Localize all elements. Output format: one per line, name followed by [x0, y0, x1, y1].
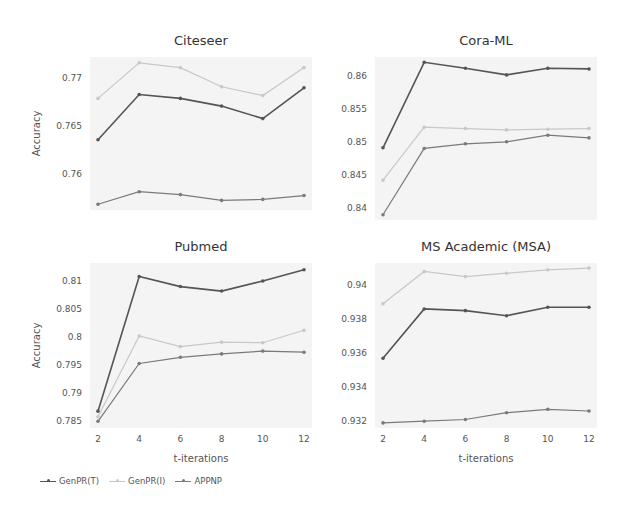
data-point	[546, 305, 550, 309]
data-point	[546, 127, 550, 131]
data-point	[546, 407, 550, 411]
y-tick-label: 0.79	[62, 388, 82, 398]
data-point	[381, 213, 385, 217]
data-point	[96, 419, 100, 423]
line-marker-icon	[109, 477, 125, 485]
data-point	[302, 268, 306, 272]
legend-label: GenPR(T)	[59, 476, 99, 486]
data-point	[464, 66, 468, 70]
x-tick-label: 4	[136, 434, 142, 444]
data-point	[137, 334, 141, 338]
data-point	[546, 268, 550, 272]
chart-title: Pubmed	[174, 239, 227, 254]
data-point	[587, 409, 591, 413]
data-point	[422, 147, 426, 151]
x-tick-label: 4	[421, 434, 427, 444]
data-point	[261, 349, 265, 353]
data-point	[505, 314, 509, 318]
data-point	[261, 94, 265, 98]
x-tick-label: 8	[219, 434, 225, 444]
data-point	[261, 341, 265, 345]
y-tick-label: 0.932	[341, 416, 367, 426]
panel-msa: MS Academic (MSA)0.9320.9340.9360.9380.9…	[341, 239, 597, 464]
panel-citeseer: Citeseer0.760.7650.77Accuracy	[31, 33, 312, 210]
figure: Citeseer0.760.7650.77Accuracy Cora-ML0.8…	[0, 0, 631, 517]
data-point	[179, 285, 183, 289]
legend-label: GenPR(I)	[128, 476, 165, 486]
panel-pubmed: Pubmed0.7850.790.7950.80.8050.8124681012…	[31, 239, 312, 464]
data-point	[587, 67, 591, 71]
plot-area	[90, 263, 312, 428]
x-tick-label: 10	[257, 434, 269, 444]
x-tick-label: 6	[463, 434, 469, 444]
data-point	[96, 409, 100, 413]
y-tick-label: 0.936	[341, 348, 367, 358]
data-point	[381, 421, 385, 425]
data-point	[381, 178, 385, 182]
data-point	[302, 86, 306, 90]
data-point	[179, 345, 183, 349]
data-point	[220, 340, 224, 344]
data-point	[587, 127, 591, 131]
x-tick-label: 10	[542, 434, 554, 444]
x-tick-label: 12	[298, 434, 309, 444]
data-point	[96, 97, 100, 101]
data-point	[546, 133, 550, 137]
y-tick-label: 0.795	[56, 360, 82, 370]
y-tick-label: 0.855	[341, 104, 367, 114]
y-tick-label: 0.81	[62, 276, 82, 286]
data-point	[302, 66, 306, 70]
data-point	[302, 194, 306, 198]
data-point	[137, 93, 141, 97]
data-point	[220, 104, 224, 108]
data-point	[96, 138, 100, 142]
data-point	[464, 418, 468, 422]
data-point	[381, 146, 385, 150]
x-axis-label: t-iterations	[174, 453, 229, 464]
data-point	[464, 127, 468, 131]
data-point	[302, 350, 306, 354]
y-tick-label: 0.765	[56, 121, 82, 131]
data-point	[546, 66, 550, 70]
data-point	[587, 136, 591, 140]
y-axis-label: Accuracy	[31, 323, 42, 369]
data-point	[220, 85, 224, 89]
data-point	[422, 270, 426, 274]
data-point	[220, 289, 224, 293]
x-tick-label: 8	[504, 434, 510, 444]
y-tick-label: 0.785	[56, 416, 82, 426]
line-marker-icon	[175, 477, 191, 485]
line-marker-icon	[40, 477, 56, 485]
data-point	[505, 128, 509, 132]
data-point	[220, 199, 224, 203]
x-tick-label: 2	[380, 434, 386, 444]
y-tick-label: 0.8	[68, 332, 83, 342]
y-tick-label: 0.84	[347, 203, 367, 213]
data-point	[137, 61, 141, 65]
y-tick-label: 0.934	[341, 382, 367, 392]
chart-title: Cora-ML	[459, 33, 513, 48]
data-point	[261, 279, 265, 283]
x-tick-label: 2	[95, 434, 101, 444]
y-tick-label: 0.86	[347, 71, 367, 81]
data-point	[261, 117, 265, 121]
y-tick-label: 0.94	[347, 280, 367, 290]
data-point	[96, 202, 100, 206]
chart-title: MS Academic (MSA)	[421, 239, 551, 254]
data-point	[422, 307, 426, 311]
data-point	[505, 411, 509, 415]
y-tick-label: 0.938	[341, 314, 367, 324]
data-point	[587, 266, 591, 270]
data-point	[302, 329, 306, 333]
y-axis-label: Accuracy	[31, 111, 42, 157]
plot-area	[90, 57, 312, 210]
data-point	[96, 415, 100, 419]
x-axis-label: t-iterations	[459, 453, 514, 464]
legend-item-genpr-i: GenPR(I)	[109, 476, 165, 486]
legend-item-appnp: APPNP	[175, 476, 222, 486]
panel-cora-ml: Cora-ML0.840.8450.850.8550.86	[341, 33, 597, 220]
y-tick-label: 0.76	[62, 169, 82, 179]
data-point	[505, 271, 509, 275]
data-point	[179, 66, 183, 70]
y-tick-label: 0.805	[56, 304, 82, 314]
